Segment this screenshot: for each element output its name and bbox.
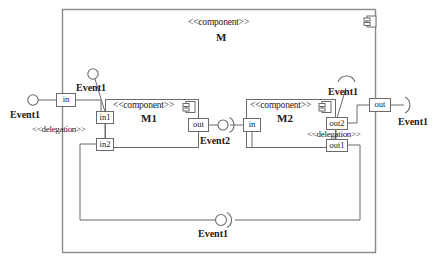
component-m1-name: M1 (141, 113, 157, 124)
port-label-m1-out[interactable]: out (188, 120, 209, 129)
component-icon-outer (364, 16, 376, 27)
component-m2-stereotype: <<component>> (250, 101, 311, 111)
port-label-outer-in[interactable]: in (56, 95, 76, 104)
outer-component-name: M (216, 32, 226, 43)
interface-label-above-m1: Event1 (76, 83, 106, 93)
interface-label-left: Event1 (10, 110, 40, 120)
port-label-outer-out[interactable]: out (369, 100, 391, 109)
interface-label-right: Event1 (398, 117, 428, 127)
port-label-m2-out2[interactable]: out2 (326, 119, 348, 128)
port-label-m2-in[interactable]: in (243, 120, 261, 129)
component-m2-name: M2 (277, 113, 293, 124)
port-label-m1-in2[interactable]: in2 (96, 140, 114, 149)
outer-component-stereotype: <<component>> (188, 18, 249, 28)
uml-component-diagram: <<component>> M Event1 <<delegation>> Ev… (0, 0, 442, 267)
delegation-label-right: <<delegation>> (307, 130, 361, 139)
interface-label-above-m2: Event1 (328, 87, 358, 97)
provided-interface-ball-left (28, 95, 38, 105)
port-label-m2-out1[interactable]: out1 (326, 141, 348, 150)
provided-interface-ball-event2 (218, 120, 228, 130)
provided-interface-ball-above-m1 (88, 69, 98, 79)
provided-interface-ball-bottom (216, 215, 227, 226)
component-m1-stereotype: <<component>> (113, 101, 174, 111)
delegation-label-left: <<delegation>> (32, 125, 86, 134)
interface-label-event2: Event2 (200, 136, 230, 146)
required-interface-socket-right (405, 97, 410, 113)
component-icon-m1 (183, 102, 195, 113)
port-label-m1-in1[interactable]: in1 (96, 113, 114, 122)
component-icon-m2 (319, 102, 331, 113)
interface-label-bottom: Event1 (198, 229, 228, 239)
